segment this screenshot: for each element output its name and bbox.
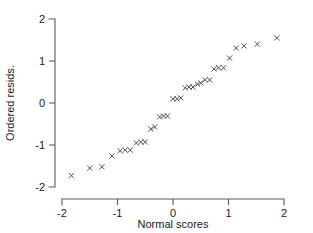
data-points-group <box>69 35 280 178</box>
data-point-marker <box>211 66 216 71</box>
qq-plot-figure: -2-1012-2-1012Normal scoresOrdered resid… <box>0 0 313 233</box>
data-point-marker <box>123 147 128 152</box>
data-point-marker <box>241 43 246 48</box>
data-point-marker <box>216 65 221 70</box>
data-point-marker <box>128 147 133 152</box>
x-tick-label: -2 <box>57 207 67 219</box>
data-point-marker <box>178 95 183 100</box>
x-tick-label: 2 <box>281 207 287 219</box>
data-point-marker <box>190 84 195 89</box>
data-point-marker <box>234 45 239 50</box>
data-point-marker <box>134 140 139 145</box>
y-tick-label: 2 <box>39 13 45 25</box>
x-axis-title: Normal scores <box>138 218 209 230</box>
data-point-marker <box>109 153 114 158</box>
data-point-marker <box>221 65 226 70</box>
y-tick-label: 1 <box>39 55 45 67</box>
data-point-marker <box>227 55 232 60</box>
data-point-marker <box>203 77 208 82</box>
data-point-marker <box>69 173 74 178</box>
data-point-marker <box>255 42 260 47</box>
x-tick-label: -1 <box>113 207 123 219</box>
x-tick-label: 1 <box>225 207 231 219</box>
data-point-marker <box>138 139 143 144</box>
plot-canvas: -2-1012-2-1012Normal scoresOrdered resid… <box>0 0 313 233</box>
y-tick-label: -2 <box>35 181 45 193</box>
data-point-marker <box>118 148 123 153</box>
y-tick-label: 0 <box>39 97 45 109</box>
data-point-marker <box>165 113 170 118</box>
data-point-marker <box>207 77 212 82</box>
y-axis-title: Ordered resids. <box>4 65 16 141</box>
y-tick-label: -1 <box>35 139 45 151</box>
data-point-marker <box>87 166 92 171</box>
data-point-marker <box>99 164 104 169</box>
data-point-marker <box>274 35 279 40</box>
data-point-marker <box>143 139 148 144</box>
